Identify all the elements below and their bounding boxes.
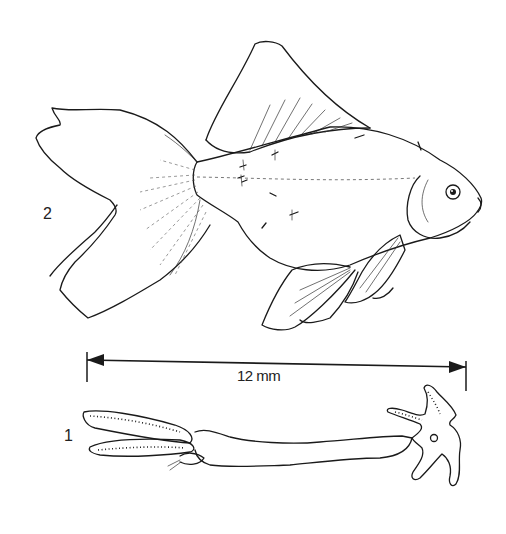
figure-label-parasite: 1	[64, 428, 73, 444]
goldfish-drawing	[0, 0, 506, 534]
figure-label-fish: 2	[43, 206, 52, 222]
scale-bar-label: 12 mm	[237, 367, 280, 384]
ventral-fins	[262, 235, 405, 330]
caudal-fin	[36, 108, 210, 318]
fish-body	[193, 127, 481, 271]
illustration: 2 1 12 mm	[0, 0, 506, 534]
dorsal-fin	[206, 42, 370, 153]
anchor-worm-drawing	[83, 385, 460, 485]
